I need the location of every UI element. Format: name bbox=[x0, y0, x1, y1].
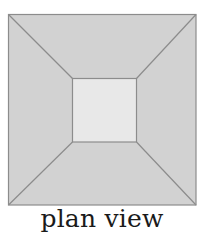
diagram-caption: plan view bbox=[0, 204, 204, 234]
pyramid-plan-diagram bbox=[0, 0, 204, 210]
inner-square bbox=[73, 79, 137, 143]
